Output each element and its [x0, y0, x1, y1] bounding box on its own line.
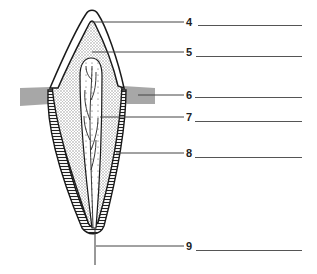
answer-blank-5[interactable] — [196, 56, 302, 57]
label-number-8: 8 — [186, 147, 192, 159]
tooth-diagram — [0, 0, 317, 274]
label-number-4: 4 — [186, 16, 192, 28]
label-number-9: 9 — [186, 240, 192, 252]
label-number-6: 6 — [186, 89, 192, 101]
answer-blank-6[interactable] — [195, 97, 302, 98]
label-number-7: 7 — [186, 111, 192, 123]
answer-blank-8[interactable] — [195, 157, 302, 158]
answer-blank-4[interactable] — [198, 25, 302, 26]
label-number-5: 5 — [186, 46, 192, 58]
answer-blank-7[interactable] — [195, 121, 302, 122]
answer-blank-9[interactable] — [196, 250, 302, 251]
